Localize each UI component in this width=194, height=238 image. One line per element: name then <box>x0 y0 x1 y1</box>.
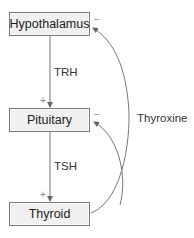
pituitary-minus-sign: − <box>94 109 100 120</box>
tsh-label: TSH <box>54 160 77 172</box>
thyroid-label: Thyroid <box>29 207 71 221</box>
hypothalamus-node: Hypothalamus <box>9 12 90 36</box>
pituitary-label: Pituitary <box>27 113 72 127</box>
pituitary-node: Pituitary <box>9 108 90 132</box>
trh-plus-sign: + <box>40 95 46 106</box>
thyroid-node: Thyroid <box>9 202 90 226</box>
hypothalamus-minus-sign: − <box>94 14 100 25</box>
thyroid-pituitary-feedback-arrow <box>94 122 123 205</box>
hypothalamus-label: Hypothalamus <box>10 17 90 31</box>
tsh-plus-sign: + <box>40 189 46 200</box>
trh-label: TRH <box>54 66 78 78</box>
thyroxine-label: Thyroxine <box>137 112 188 124</box>
